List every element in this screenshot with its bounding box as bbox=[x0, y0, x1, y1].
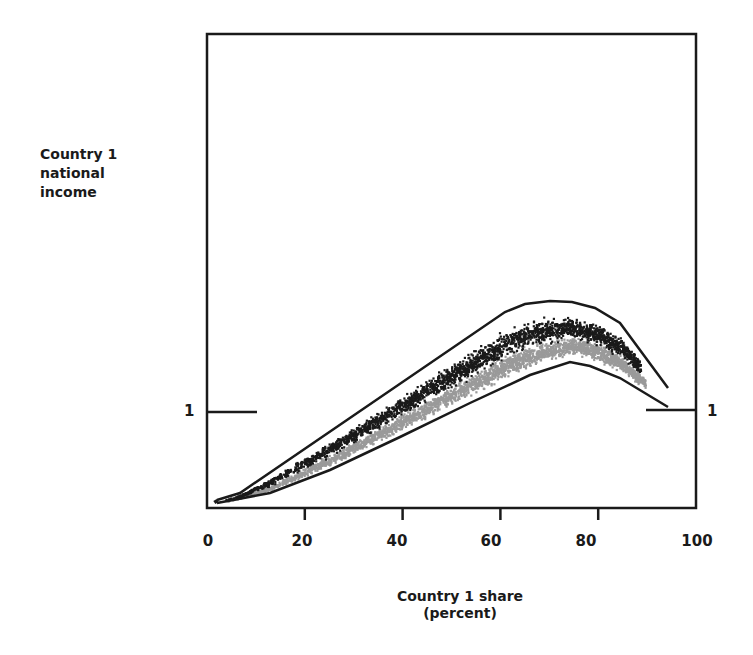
left-reference-label: 1 bbox=[184, 402, 194, 420]
plot-area bbox=[0, 0, 753, 655]
envelope-origin bbox=[215, 500, 217, 503]
x-axis-ticks bbox=[305, 508, 598, 520]
x-tick-label-80: 80 bbox=[576, 532, 597, 550]
plot-frame bbox=[207, 34, 696, 508]
x-tick-label-40: 40 bbox=[387, 532, 408, 550]
x-axis-label-line-1: Country 1 share bbox=[360, 588, 560, 605]
x-axis-label: Country 1 share (percent) bbox=[360, 588, 560, 622]
x-tick-label-0: 0 bbox=[203, 532, 213, 550]
right-reference-label: 1 bbox=[707, 402, 717, 420]
x-tick-label-60: 60 bbox=[481, 532, 502, 550]
x-tick-label-20: 20 bbox=[292, 532, 313, 550]
x-axis-label-line-2: (percent) bbox=[360, 605, 560, 622]
x-tick-label-100: 100 bbox=[681, 532, 712, 550]
